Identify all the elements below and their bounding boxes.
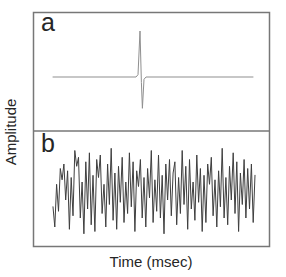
y-axis-label: Amplitude <box>2 99 19 166</box>
x-axis-label: Time (msec) <box>110 253 193 270</box>
noise-trace <box>53 148 255 234</box>
figure-canvas: a b Amplitude Time (msec) <box>0 0 286 277</box>
impulse-trace <box>53 31 253 108</box>
panel-b-label: b <box>41 129 55 157</box>
waveform-figure: a b Amplitude Time (msec) <box>0 0 286 277</box>
panel-a-label: a <box>41 8 55 36</box>
